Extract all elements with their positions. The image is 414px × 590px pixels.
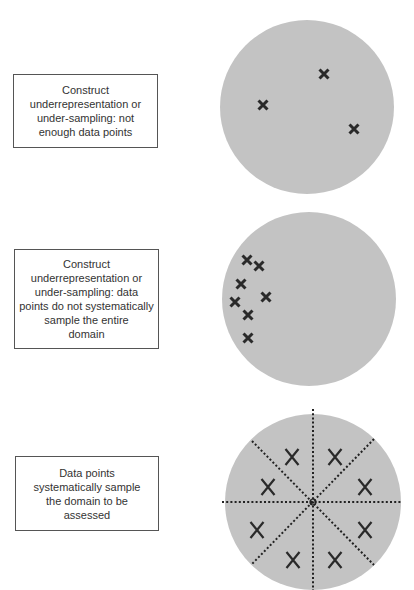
diagram-canvas <box>0 0 414 590</box>
domain-circle-clustered <box>222 212 396 386</box>
domain-circle-systematic <box>222 409 402 590</box>
domain-circle-few-points <box>220 20 394 194</box>
